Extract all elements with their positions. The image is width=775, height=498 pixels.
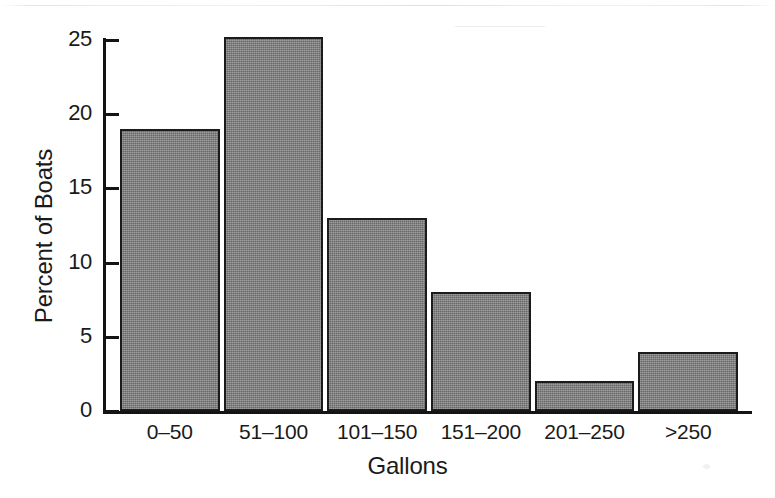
x-axis-title: Gallons: [0, 452, 775, 480]
x-axis-tick-label: 51–100: [224, 420, 324, 444]
x-axis-tick-label: 151–200: [431, 420, 531, 444]
bar: [535, 381, 635, 411]
x-axis-tick-label: >250: [638, 420, 738, 444]
x-axis-tick-label: 201–250: [535, 420, 635, 444]
bar-chart-figure: 0510152025 0–5051–100101–150151–200201–2…: [0, 0, 775, 498]
x-axis-tick-label: 0–50: [120, 420, 220, 444]
bar: [431, 292, 531, 411]
bar: [224, 37, 324, 411]
y-axis-title: Percent of Boats: [30, 96, 58, 376]
bar: [120, 129, 220, 411]
bar: [327, 218, 427, 411]
x-axis-tick-label: 101–150: [327, 420, 427, 444]
bar: [638, 352, 738, 411]
x-axis-title-text: Gallons: [368, 452, 448, 479]
